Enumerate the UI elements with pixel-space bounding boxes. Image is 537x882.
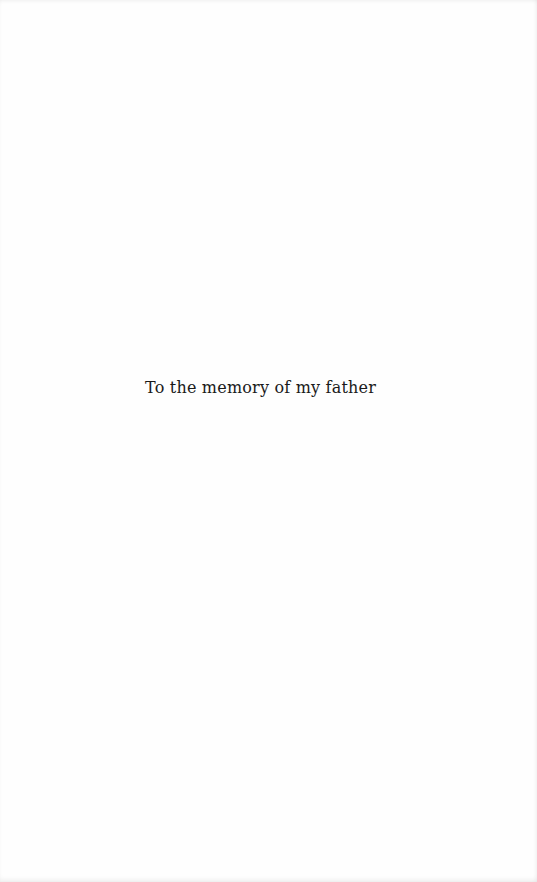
book-page: To the memory of my father	[0, 0, 537, 882]
dedication-text: To the memory of my father	[145, 378, 376, 397]
